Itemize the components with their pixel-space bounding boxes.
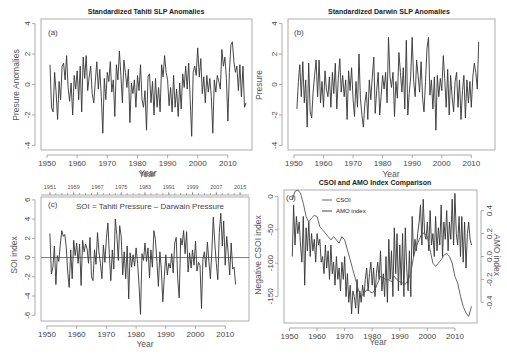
x-tick-label: 1960 bbox=[308, 332, 326, 341]
x-tick-label: 1990 bbox=[403, 159, 421, 168]
panel-c-y-axis: -6-4-20246 bbox=[23, 197, 35, 319]
x-tick-label: 1960 bbox=[68, 330, 86, 339]
top-x-tick-label: 2015 bbox=[234, 184, 246, 190]
y-tick-label: -2 bbox=[23, 273, 32, 281]
panel-d-csoi-amo: CSOI and AMO Index Comparison (d) -150-1… bbox=[253, 179, 502, 347]
top-x-tick-label: 1975 bbox=[115, 184, 127, 190]
x-tick-label: 1990 bbox=[157, 330, 175, 339]
x-tick-label: 1950 bbox=[38, 159, 56, 168]
y-tick-label: -2 bbox=[270, 111, 279, 119]
y-tick-label: 0 bbox=[266, 194, 275, 199]
x-tick-label: 2010 bbox=[462, 159, 480, 168]
y-tick-label: -6 bbox=[23, 311, 32, 319]
panel-b-y-axis: -4-2024 bbox=[270, 21, 282, 149]
panel-d-amo-line bbox=[292, 193, 471, 313]
y-tick-label: -150 bbox=[266, 288, 275, 305]
y-tick-label: -2 bbox=[23, 111, 32, 119]
panel-d-label: (d) bbox=[286, 193, 296, 202]
x-tick-label: 1960 bbox=[315, 159, 333, 168]
panel-c-top-xlabel: Year bbox=[139, 168, 156, 178]
x-tick-label: 2000 bbox=[433, 159, 451, 168]
top-x-tick-label: 2007 bbox=[210, 184, 222, 190]
x-tick-label: 1980 bbox=[127, 330, 145, 339]
y-tick-label: -4 bbox=[23, 292, 32, 300]
panel-b-darwin-slp: Standardized Darwin SLP Anomalies (b) -4… bbox=[254, 8, 495, 179]
panel-a-title: Standardized Tahiti SLP Anomalies bbox=[88, 8, 205, 15]
top-x-tick-label: 1967 bbox=[91, 184, 103, 190]
panel-c-plot-box bbox=[41, 197, 249, 321]
legend-amo-label: AMO index bbox=[336, 208, 366, 214]
panel-c-top-x-axis: 195119591967197519831991199920072015 bbox=[41, 184, 249, 195]
panel-b-x-axis: 1950196019701980199020002010 bbox=[285, 155, 481, 168]
y-tick-label: -4 bbox=[23, 141, 32, 149]
x-tick-label: 1980 bbox=[374, 159, 392, 168]
panel-d-title: CSOI and AMO Index Comparison bbox=[319, 179, 432, 187]
x-tick-label: 1980 bbox=[129, 159, 147, 168]
y-tick-label: 2 bbox=[270, 51, 279, 56]
panel-b-series-line bbox=[297, 37, 479, 130]
panel-d-left-y-axis: -150-100-500 bbox=[266, 194, 278, 305]
y-tick-label: 6 bbox=[23, 197, 32, 202]
x-tick-label: 1950 bbox=[285, 159, 303, 168]
y-tick-label: 0 bbox=[270, 82, 279, 87]
legend-csoi-label: CSOI bbox=[336, 197, 351, 203]
x-tick-label: 2010 bbox=[216, 330, 234, 339]
y-tick-label: -50 bbox=[266, 224, 275, 236]
panel-d-csoi-line bbox=[292, 190, 471, 316]
panel-c-xlabel: Year bbox=[136, 339, 153, 349]
panel-d-xlabel: Year bbox=[369, 337, 386, 347]
y-tick-label: 4 bbox=[270, 21, 279, 26]
x-tick-label: 2000 bbox=[187, 330, 205, 339]
figure-canvas: Standardized Tahiti SLP Anomalies (a) -4… bbox=[0, 0, 507, 359]
y-tick-label: 2 bbox=[23, 51, 32, 56]
y-tick-label: 4 bbox=[23, 216, 32, 221]
x-tick-label: 1990 bbox=[159, 159, 177, 168]
y-tick-label: -100 bbox=[266, 255, 275, 272]
panel-c-soi: Year (c) SOI = Tahiti Pressure – Darwain… bbox=[9, 168, 249, 349]
x-tick-label: 1950 bbox=[281, 332, 299, 341]
x-tick-label: 1970 bbox=[97, 330, 115, 339]
y-tick-label: 0 bbox=[23, 82, 32, 87]
x-tick-label: 1970 bbox=[98, 159, 116, 168]
x-tick-label: 1960 bbox=[68, 159, 86, 168]
panel-b-xlabel: Year bbox=[382, 169, 399, 179]
panel-a-tahiti-slp: Standardized Tahiti SLP Anomalies (a) -4… bbox=[11, 8, 252, 179]
x-tick-label: 1970 bbox=[344, 159, 362, 168]
panel-a-y-axis: -4-2024 bbox=[23, 21, 35, 149]
y-tick-label: 0 bbox=[23, 255, 32, 260]
panel-a-x-axis: 1950196019701980199020002010 bbox=[38, 155, 237, 168]
right-y-tick-label: 0.4 bbox=[485, 205, 494, 217]
x-tick-label: 2000 bbox=[418, 332, 436, 341]
x-tick-label: 1970 bbox=[336, 332, 354, 341]
top-x-tick-label: 1951 bbox=[44, 184, 56, 190]
panel-a-series-line bbox=[50, 42, 246, 137]
panel-d-ylabel-right: AMO index bbox=[492, 234, 502, 277]
panel-b-label: (b) bbox=[294, 28, 304, 37]
x-tick-label: 2010 bbox=[446, 332, 464, 341]
panel-c-series-line bbox=[50, 213, 236, 314]
top-x-tick-label: 1991 bbox=[163, 184, 175, 190]
panel-a-ylabel: Presure Anomalies bbox=[11, 49, 21, 120]
x-tick-label: 1950 bbox=[38, 330, 56, 339]
x-tick-label: 2010 bbox=[219, 159, 237, 168]
top-x-tick-label: 1959 bbox=[68, 184, 80, 190]
panel-c-annotation: SOI = Tahiti Pressure – Darwain Pressure bbox=[76, 202, 225, 211]
panel-b-ylabel: Presure bbox=[254, 70, 264, 100]
y-tick-label: 4 bbox=[23, 21, 32, 26]
panel-d-legend: CSOI AMO index bbox=[322, 197, 366, 214]
panel-b-title: Standardized Darwin SLP Anomalies bbox=[328, 8, 450, 15]
panel-c-x-axis: 1950196019701980199020002010 bbox=[38, 326, 235, 339]
top-x-tick-label: 1999 bbox=[186, 184, 198, 190]
panel-d-ylabel: Negative CSOI index bbox=[253, 215, 263, 295]
y-tick-label: -4 bbox=[270, 141, 279, 149]
top-x-tick-label: 1983 bbox=[139, 184, 151, 190]
x-tick-label: 2000 bbox=[189, 159, 207, 168]
x-tick-label: 1990 bbox=[391, 332, 409, 341]
panel-a-label: (a) bbox=[48, 28, 58, 37]
right-y-tick-label: -0.4 bbox=[485, 295, 494, 309]
panel-c-ylabel: SOI index bbox=[9, 236, 19, 274]
panel-c-label: (c) bbox=[48, 200, 58, 209]
y-tick-label: 2 bbox=[23, 236, 32, 241]
